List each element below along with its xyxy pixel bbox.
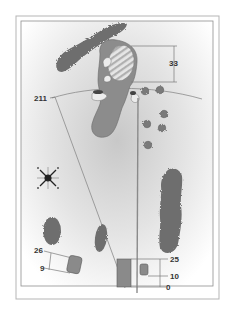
label-left-tee-top: 26 xyxy=(34,246,43,255)
label-tee-right-top: 25 xyxy=(170,255,179,264)
label-carry-distance: 211 xyxy=(34,94,47,103)
tree-left xyxy=(43,217,61,245)
label-tee-right-bottom: 0 xyxy=(166,283,171,292)
centerline xyxy=(137,98,138,293)
label-green-depth: 33 xyxy=(169,59,178,68)
compass-rose-icon xyxy=(37,167,59,189)
tee-box-forward xyxy=(140,264,148,275)
golf-hole-diagram: 33 26 9 xyxy=(0,0,231,322)
label-tee-right-mid: 10 xyxy=(170,272,179,281)
label-left-tee-bottom: 9 xyxy=(40,264,45,273)
tee-box-main xyxy=(117,259,131,287)
